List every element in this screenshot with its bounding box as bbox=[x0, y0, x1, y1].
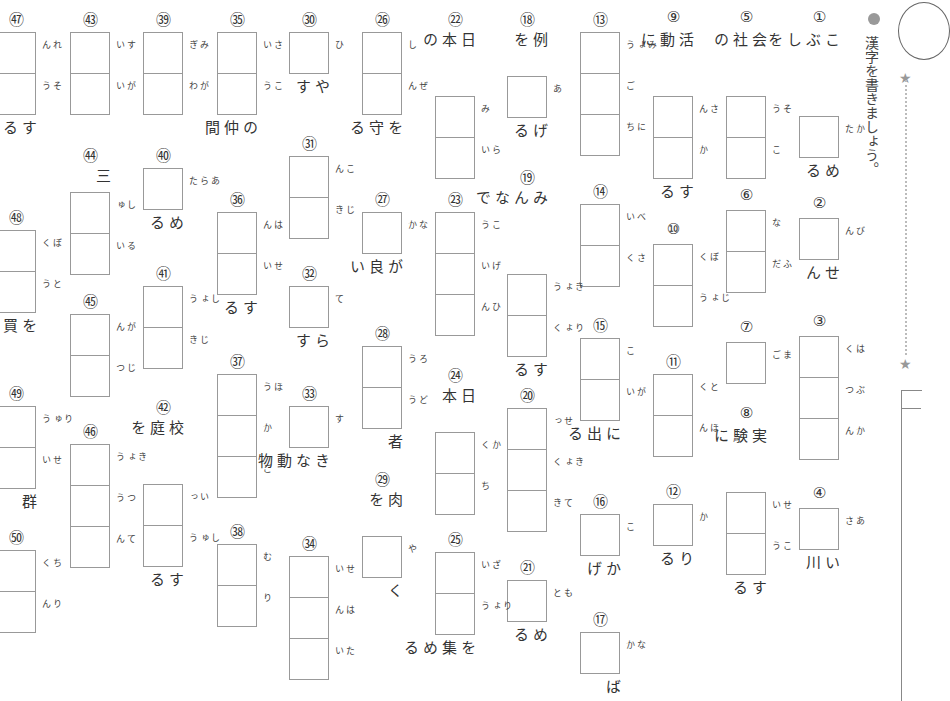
answer-cell[interactable] bbox=[581, 515, 619, 556]
answer-cell[interactable] bbox=[218, 375, 256, 416]
answer-box[interactable] bbox=[70, 314, 110, 397]
answer-cell[interactable] bbox=[144, 33, 182, 74]
answer-cell[interactable] bbox=[654, 245, 692, 286]
answer-box[interactable] bbox=[653, 244, 693, 327]
answer-box[interactable] bbox=[217, 212, 257, 295]
answer-cell[interactable] bbox=[218, 457, 256, 498]
answer-cell[interactable] bbox=[290, 287, 328, 328]
answer-cell[interactable] bbox=[654, 505, 692, 546]
answer-box[interactable] bbox=[217, 32, 257, 115]
answer-box[interactable] bbox=[362, 212, 402, 254]
answer-cell[interactable] bbox=[71, 445, 109, 486]
answer-box[interactable] bbox=[580, 632, 620, 674]
answer-cell[interactable] bbox=[290, 198, 328, 239]
answer-cell[interactable] bbox=[581, 74, 619, 115]
answer-box[interactable] bbox=[289, 32, 329, 74]
answer-box[interactable] bbox=[435, 552, 475, 635]
answer-box[interactable] bbox=[653, 96, 693, 179]
answer-box[interactable] bbox=[435, 432, 475, 515]
answer-box[interactable] bbox=[435, 212, 475, 336]
answer-cell[interactable] bbox=[508, 275, 546, 316]
answer-cell[interactable] bbox=[0, 74, 35, 115]
answer-cell[interactable] bbox=[71, 356, 109, 397]
answer-cell[interactable] bbox=[0, 231, 35, 272]
answer-cell[interactable] bbox=[800, 378, 838, 419]
answer-cell[interactable] bbox=[436, 295, 474, 336]
answer-box[interactable] bbox=[70, 444, 110, 568]
answer-box[interactable] bbox=[799, 116, 839, 158]
answer-cell[interactable] bbox=[727, 343, 765, 384]
answer-cell[interactable] bbox=[218, 545, 256, 586]
answer-cell[interactable] bbox=[581, 33, 619, 74]
answer-cell[interactable] bbox=[581, 380, 619, 421]
answer-cell[interactable] bbox=[727, 493, 765, 534]
answer-cell[interactable] bbox=[71, 74, 109, 115]
answer-cell[interactable] bbox=[508, 450, 546, 491]
answer-cell[interactable] bbox=[581, 205, 619, 246]
answer-box[interactable] bbox=[0, 32, 36, 115]
answer-box[interactable] bbox=[0, 230, 36, 313]
answer-cell[interactable] bbox=[218, 33, 256, 74]
answer-cell[interactable] bbox=[290, 598, 328, 639]
answer-box[interactable] bbox=[580, 514, 620, 556]
answer-box[interactable] bbox=[0, 550, 36, 633]
answer-cell[interactable] bbox=[363, 347, 401, 388]
answer-box[interactable] bbox=[362, 32, 402, 115]
answer-cell[interactable] bbox=[581, 115, 619, 156]
answer-cell[interactable] bbox=[581, 246, 619, 287]
answer-cell[interactable] bbox=[0, 448, 35, 489]
answer-box[interactable] bbox=[289, 406, 329, 448]
answer-cell[interactable] bbox=[727, 252, 765, 293]
answer-cell[interactable] bbox=[363, 537, 401, 578]
answer-cell[interactable] bbox=[144, 526, 182, 567]
answer-cell[interactable] bbox=[800, 509, 838, 550]
answer-cell[interactable] bbox=[71, 234, 109, 275]
answer-box[interactable] bbox=[507, 408, 547, 532]
answer-cell[interactable] bbox=[144, 169, 182, 210]
answer-box[interactable] bbox=[653, 374, 693, 457]
answer-cell[interactable] bbox=[436, 553, 474, 594]
answer-cell[interactable] bbox=[363, 213, 401, 254]
answer-cell[interactable] bbox=[800, 117, 838, 158]
answer-cell[interactable] bbox=[0, 272, 35, 313]
answer-box[interactable] bbox=[217, 544, 257, 627]
answer-cell[interactable] bbox=[508, 581, 546, 622]
answer-box[interactable] bbox=[289, 156, 329, 239]
answer-cell[interactable] bbox=[363, 388, 401, 429]
answer-cell[interactable] bbox=[290, 407, 328, 448]
answer-box[interactable] bbox=[799, 508, 839, 550]
answer-box[interactable] bbox=[217, 374, 257, 498]
answer-cell[interactable] bbox=[363, 74, 401, 115]
answer-cell[interactable] bbox=[436, 433, 474, 474]
answer-cell[interactable] bbox=[218, 416, 256, 457]
answer-cell[interactable] bbox=[144, 74, 182, 115]
answer-cell[interactable] bbox=[654, 138, 692, 179]
answer-box[interactable] bbox=[70, 32, 110, 115]
answer-cell[interactable] bbox=[508, 77, 546, 118]
answer-cell[interactable] bbox=[290, 33, 328, 74]
answer-cell[interactable] bbox=[727, 97, 765, 138]
answer-cell[interactable] bbox=[800, 219, 838, 260]
answer-cell[interactable] bbox=[654, 416, 692, 457]
answer-cell[interactable] bbox=[581, 633, 619, 674]
answer-cell[interactable] bbox=[218, 74, 256, 115]
answer-cell[interactable] bbox=[0, 592, 35, 633]
answer-box[interactable] bbox=[143, 168, 183, 210]
answer-box[interactable] bbox=[0, 406, 36, 489]
answer-box[interactable] bbox=[435, 96, 475, 179]
answer-cell[interactable] bbox=[144, 328, 182, 369]
answer-cell[interactable] bbox=[436, 138, 474, 179]
answer-cell[interactable] bbox=[436, 213, 474, 254]
answer-cell[interactable] bbox=[727, 138, 765, 179]
answer-cell[interactable] bbox=[800, 337, 838, 378]
answer-box[interactable] bbox=[653, 504, 693, 546]
answer-cell[interactable] bbox=[218, 254, 256, 295]
answer-cell[interactable] bbox=[218, 213, 256, 254]
answer-cell[interactable] bbox=[508, 316, 546, 357]
answer-cell[interactable] bbox=[436, 594, 474, 635]
answer-cell[interactable] bbox=[508, 409, 546, 450]
answer-cell[interactable] bbox=[0, 551, 35, 592]
answer-cell[interactable] bbox=[71, 33, 109, 74]
answer-box[interactable] bbox=[580, 204, 620, 287]
answer-box[interactable] bbox=[580, 338, 620, 421]
